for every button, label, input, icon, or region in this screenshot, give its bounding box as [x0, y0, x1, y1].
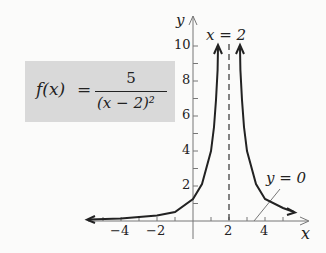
x-tick-label: 2 [224, 223, 232, 238]
formula-fx: f(x) [36, 79, 65, 99]
y-axis-label: y [176, 11, 184, 29]
y-tick-label: 8 [182, 72, 190, 87]
y-tick-label: 4 [182, 142, 190, 157]
x-tick-label: 4 [260, 223, 268, 238]
vertical-asymptote-label: x = 2 [206, 26, 246, 44]
x-axis-label: x [301, 224, 310, 243]
horizontal-asymptote-label: y = 0 [266, 169, 306, 187]
y-tick-label: 2 [182, 177, 190, 192]
y-tick-label: 10 [174, 37, 191, 52]
y-tick-label: 6 [182, 107, 190, 122]
y-ticks [193, 46, 198, 204]
x-tick-label: −4 [110, 223, 129, 238]
graph [0, 0, 326, 253]
formula-box: f(x) = 5 (x − 2)² [25, 61, 175, 122]
x-tick-label: −2 [146, 223, 165, 238]
formula-equals: = [77, 79, 91, 99]
fraction-bar [95, 91, 167, 92]
formula-denominator: (x − 2)² [97, 94, 155, 112]
formula-numerator: 5 [95, 69, 167, 87]
curve-right-branch [240, 48, 294, 212]
